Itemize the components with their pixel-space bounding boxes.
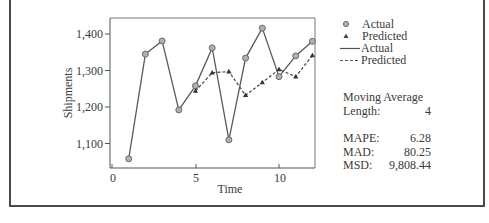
- actual-point: [259, 25, 265, 31]
- y-axis: 1,400 1,300 1,200 1,100 Shipments: [61, 27, 110, 151]
- accuracy-measures: Moving Average Length: 4 MAPE: 6.28 MAD:…: [343, 91, 431, 173]
- actual-point: [276, 74, 282, 80]
- actual-point: [176, 107, 182, 113]
- mape-row: MAPE: 6.28: [343, 132, 431, 146]
- mad-row: MAD: 80.25: [343, 146, 431, 160]
- series-actual: [126, 25, 316, 162]
- x-tick-0: 0: [110, 171, 116, 185]
- x-tick-5: 5: [193, 171, 199, 185]
- msd-value: 9,808.44: [389, 159, 431, 173]
- circle-marker-icon: [343, 21, 348, 26]
- msd-row: MSD: 9,808.44: [343, 159, 431, 173]
- actual-point: [226, 137, 232, 143]
- triangle-marker-icon: [344, 34, 349, 39]
- predicted-point: [226, 69, 231, 74]
- actual-point: [293, 53, 299, 59]
- x-tick-10: 10: [274, 171, 286, 185]
- y-tick-1100: 1,100: [76, 137, 103, 151]
- actual-point: [159, 38, 165, 44]
- y-tick-1300: 1,300: [76, 64, 103, 78]
- mape-value: 6.28: [410, 132, 431, 146]
- predicted-point: [293, 74, 298, 79]
- length-value: 4: [425, 105, 431, 119]
- method-title: Moving Average: [343, 91, 431, 105]
- mad-value: 80.25: [404, 146, 431, 160]
- actual-point: [209, 45, 215, 51]
- y-tick-1400: 1,400: [76, 27, 103, 41]
- mad-label: MAD:: [343, 146, 374, 160]
- plot-area: [110, 18, 315, 168]
- actual-point: [126, 156, 132, 162]
- actual-point: [309, 38, 315, 44]
- length-row: Length: 4: [343, 105, 431, 119]
- actual-point: [142, 51, 148, 57]
- predicted-point: [276, 67, 281, 72]
- x-axis: 0 5 10 Time: [110, 164, 286, 196]
- legend-label-predicted-line: Predicted: [361, 53, 406, 67]
- actual-point: [193, 83, 199, 89]
- legend: Actual Predicted Actual Predicted: [340, 17, 407, 67]
- actual-point: [243, 55, 249, 61]
- series-predicted: [193, 53, 315, 97]
- y-axis-label: Shipments: [61, 67, 75, 118]
- predicted-point: [310, 53, 315, 58]
- length-label: Length:: [343, 105, 380, 119]
- predicted-point: [260, 80, 265, 85]
- msd-label: MSD:: [343, 159, 372, 173]
- mape-label: MAPE:: [343, 132, 380, 146]
- y-tick-1200: 1,200: [76, 100, 103, 114]
- x-axis-label: Time: [218, 182, 243, 196]
